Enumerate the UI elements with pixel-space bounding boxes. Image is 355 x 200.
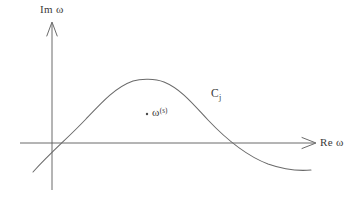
- omega-s-label-superscript: (s): [159, 107, 167, 115]
- contour-curve-cj: [33, 79, 311, 172]
- contour-label-cj: Cj: [211, 88, 221, 102]
- complex-plane-contour-figure: Im ω Re ω Cj ω(s): [0, 0, 355, 200]
- omega-s-point-dot: [146, 113, 148, 115]
- re-axis-label-symbol: ω: [336, 136, 344, 148]
- omega-s-label: ω(s): [152, 107, 167, 118]
- im-axis-label-symbol: ω: [56, 3, 64, 15]
- im-axis-label-prefix: Im: [40, 3, 53, 15]
- figure-canvas: [0, 0, 355, 200]
- re-axis-label: Re ω: [320, 137, 344, 148]
- re-axis-label-prefix: Re: [320, 136, 333, 148]
- im-axis-label: Im ω: [40, 4, 64, 15]
- contour-label-base: C: [211, 87, 219, 99]
- contour-label-subscript: j: [219, 93, 222, 102]
